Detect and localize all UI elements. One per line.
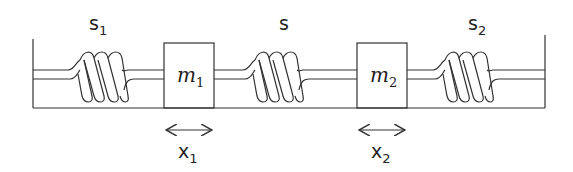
spring-s2-label: s2	[468, 12, 486, 38]
mass-m2-label: m2	[370, 63, 397, 90]
spring-s1	[33, 52, 164, 102]
displacement-x2-label: x2	[371, 140, 391, 166]
spring-s1-coils	[78, 52, 128, 102]
mass-m1-label: m1	[177, 63, 204, 90]
spring-s-label: s	[279, 12, 289, 34]
spring-s	[214, 52, 357, 102]
displacement-x1-label: x1	[178, 140, 198, 166]
spring-s1-label: s1	[89, 12, 107, 38]
spring-s2	[407, 52, 545, 102]
spring-mass-diagram: s1 s s2 m1 m2 x1 x2	[0, 0, 573, 172]
